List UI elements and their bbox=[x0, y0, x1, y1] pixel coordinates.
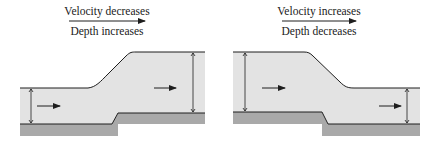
right-depth-label: Depth decreases bbox=[281, 25, 357, 38]
left-header: Velocity decreases Depth increases bbox=[64, 5, 150, 38]
left-depth-label: Depth increases bbox=[70, 25, 144, 38]
right-header: Velocity increases Depth decreases bbox=[277, 5, 361, 38]
left-velocity-label: Velocity decreases bbox=[64, 5, 150, 18]
right-velocity-label: Velocity increases bbox=[277, 5, 361, 18]
left-panel: Velocity decreases Depth increases bbox=[20, 5, 205, 136]
right-panel: Velocity increases Depth decreases bbox=[233, 5, 420, 136]
flow-diagram: Velocity decreases Depth increases bbox=[0, 0, 436, 146]
